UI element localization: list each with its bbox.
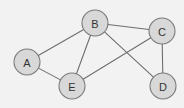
graph-node-c[interactable]: C [149,18,175,44]
graph-diagram: ABCDE [0,0,184,108]
graph-node-a[interactable]: A [14,49,40,75]
graph-node-label-b: B [91,18,98,30]
graph-node-label-a: A [23,57,31,69]
graph-node-label-d: D [159,81,167,93]
graph-node-e[interactable]: E [59,73,85,99]
graph-node-b[interactable]: B [82,10,108,36]
graph-svg-canvas: ABCDE [0,0,184,108]
graph-node-d[interactable]: D [150,73,176,99]
graph-node-label-e: E [68,81,75,93]
graph-edge-c-d [162,44,163,73]
graph-node-label-c: C [158,26,166,38]
